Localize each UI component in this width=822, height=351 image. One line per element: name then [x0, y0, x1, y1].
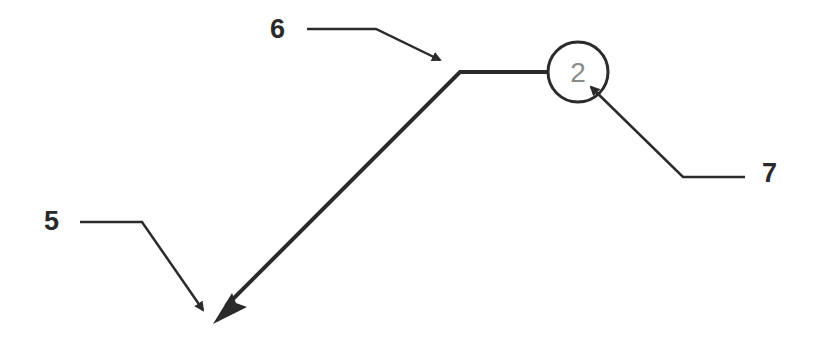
balloon-number: 2	[570, 57, 586, 88]
callout-7-leader	[591, 87, 745, 177]
callout-5-leader	[80, 222, 203, 310]
main-leader-arrowhead-icon	[213, 293, 247, 324]
callout-label-6: 6	[270, 14, 285, 44]
balloon: 2	[548, 42, 608, 102]
diagram-canvas: 2 6 5 7	[0, 0, 822, 351]
callout-label-7: 7	[762, 158, 777, 188]
callout-label-5: 5	[44, 206, 59, 236]
callout-6-leader	[307, 29, 440, 60]
callout-diagram: 2 6 5 7	[0, 0, 822, 351]
callout-5: 5	[44, 206, 203, 310]
main-leader	[213, 72, 548, 324]
callout-7: 7	[591, 87, 777, 188]
callout-6: 6	[270, 14, 440, 60]
main-leader-line	[226, 72, 548, 306]
